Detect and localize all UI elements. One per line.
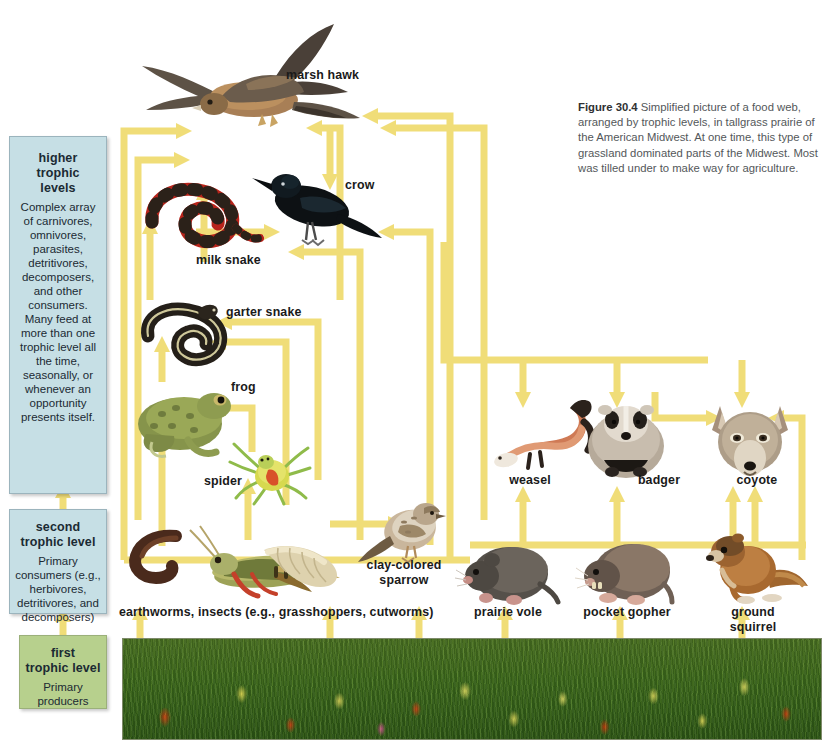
- cutworm-image: [256, 540, 348, 592]
- figure-caption-number: Figure 30.4: [578, 101, 638, 113]
- label-spider: spider: [204, 474, 242, 489]
- label-pocket-gopher: pocket gopher: [583, 605, 670, 620]
- label-weasel: weasel: [509, 473, 551, 488]
- label-frog: frog: [231, 380, 256, 395]
- figure-caption: Figure 30.4 Simplified picture of a food…: [578, 100, 826, 176]
- trophic-level-second: second trophic level Primary consumers (…: [9, 509, 107, 614]
- trophic-level-first: first trophic level Primary producers: [19, 635, 107, 709]
- label-ground-squirrel: ground squirrel: [714, 605, 793, 635]
- spider-image: [228, 440, 312, 506]
- tallgrass-prairie-photo: [122, 638, 822, 740]
- label-milk-snake: milk snake: [196, 253, 261, 268]
- trophic-level-higher-body: Complex array of carnivores, omnivores, …: [16, 200, 100, 424]
- prairie-grass-texture: [123, 639, 821, 739]
- milk-snake-image: [140, 176, 264, 254]
- label-detritivores: earthworms, insects (e.g., grasshoppers,…: [119, 605, 434, 620]
- ground-squirrel-image: [700, 526, 810, 606]
- label-clay-colored-sparrow: clay-colored sparrow: [367, 558, 442, 588]
- badger-image: [578, 398, 674, 480]
- label-coyote: coyote: [737, 473, 778, 488]
- trophic-level-second-body: Primary consumers (e.g., herbivores, det…: [14, 554, 102, 624]
- marsh-hawk-image: [126, 22, 376, 152]
- frog-image: [128, 382, 236, 460]
- trophic-level-first-title: first trophic level: [24, 646, 102, 676]
- trophic-level-higher-title: higher trophic levels: [16, 151, 100, 196]
- trophic-level-second-title: second trophic level: [14, 520, 102, 550]
- label-garter-snake: garter snake: [226, 305, 302, 320]
- figure-canvas: higher trophic levels Complex array of c…: [0, 0, 832, 751]
- prairie-vole-image: [462, 540, 558, 606]
- label-prairie-vole: prairie vole: [474, 605, 542, 620]
- coyote-image: [706, 396, 794, 482]
- label-marsh-hawk: marsh hawk: [286, 68, 359, 83]
- label-badger: badger: [638, 473, 680, 488]
- crow-image: [250, 160, 390, 260]
- trophic-level-higher: higher trophic levels Complex array of c…: [9, 136, 107, 494]
- label-crow: crow: [345, 178, 375, 193]
- pocket-gopher-image: [578, 538, 674, 608]
- trophic-level-first-body: Primary producers: [24, 680, 102, 708]
